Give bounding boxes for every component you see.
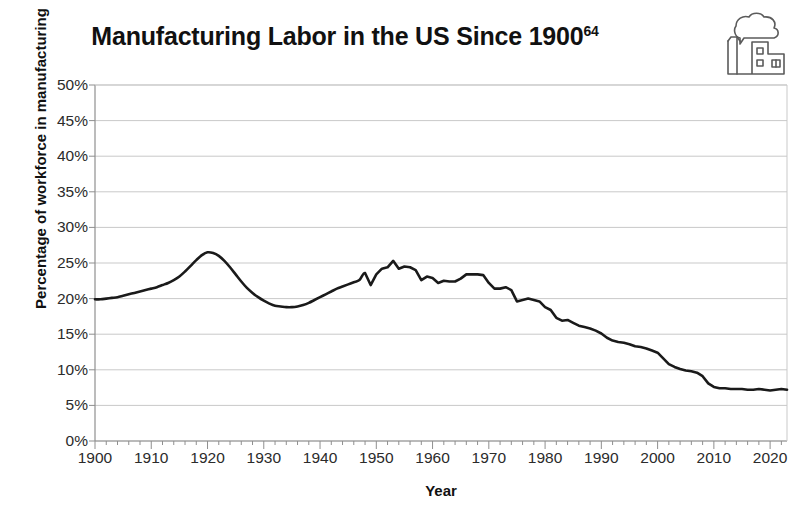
chart-figure: Manufacturing Labor in the US Since 1900… [0,0,801,507]
x-tick-label: 2020 [735,449,801,467]
y-axis-ticks [89,85,95,441]
gridlines [95,85,787,441]
plot-area [0,0,801,507]
x-axis-ticks [95,441,781,449]
